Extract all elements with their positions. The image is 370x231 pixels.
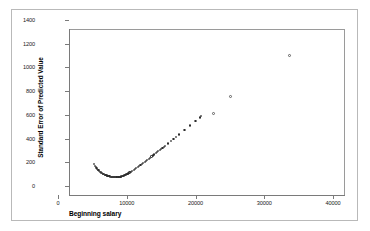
data-point xyxy=(170,140,172,142)
y-tick-label-200: 200 xyxy=(26,159,35,165)
y-tick-1400 xyxy=(65,20,69,21)
plot-frame-right-edge xyxy=(344,29,345,196)
data-point xyxy=(189,124,191,126)
y-tick-label-600: 600 xyxy=(26,112,35,118)
x-tick-label-10000: 10000 xyxy=(107,200,147,206)
x-tick-0 xyxy=(58,195,59,199)
data-point xyxy=(178,133,180,135)
data-point xyxy=(172,138,174,140)
x-tick-30000 xyxy=(264,195,265,199)
data-point xyxy=(183,129,185,131)
x-tick-label-0: 0 xyxy=(38,200,78,206)
x-tick-20000 xyxy=(196,195,197,199)
data-point xyxy=(175,136,177,138)
y-axis-title: Standard Error of Predicted Value xyxy=(37,33,44,183)
x-tick-10000 xyxy=(127,195,128,199)
chart-screenshot: 0200400600800100012001400 01000020000300… xyxy=(0,0,370,231)
data-point xyxy=(167,142,169,144)
y-tick-label-400: 400 xyxy=(26,136,35,142)
x-tick-label-30000: 30000 xyxy=(244,200,284,206)
data-point xyxy=(212,112,215,115)
y-tick-label-1200: 1200 xyxy=(23,41,35,47)
x-axis-title: Beginning salary xyxy=(69,210,121,217)
x-tick-40000 xyxy=(333,195,334,199)
chart-outer-frame: 0200400600800100012001400 01000020000300… xyxy=(11,9,358,221)
x-tick-label-20000: 20000 xyxy=(176,200,216,206)
y-tick-label-1000: 1000 xyxy=(23,64,35,70)
x-axis-line xyxy=(69,195,345,196)
x-tick-label-40000: 40000 xyxy=(313,200,353,206)
data-point xyxy=(164,145,166,147)
data-point xyxy=(288,54,291,57)
data-point xyxy=(194,120,196,122)
y-tick-label-1400: 1400 xyxy=(23,17,35,23)
y-tick-label-800: 800 xyxy=(26,88,35,94)
data-point xyxy=(229,95,232,98)
y-tick-label-0: 0 xyxy=(32,183,35,189)
scatter-plot-area xyxy=(69,29,344,195)
